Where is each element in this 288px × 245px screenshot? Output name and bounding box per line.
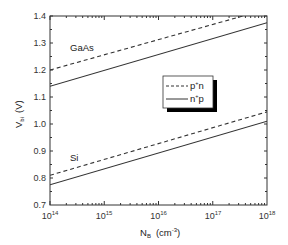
series-gaas-n+p-line (50, 23, 267, 86)
y-tick-label: 0.7 (33, 200, 46, 210)
legend: p+n n+p (163, 76, 217, 112)
series-si-p+n-line (50, 112, 267, 175)
annotation-gaas: GaAs (70, 42, 94, 53)
y-tick-label: 0.8 (33, 173, 46, 183)
y-tick-label: 1.1 (33, 92, 46, 102)
plot-area (50, 9, 267, 185)
chart: 0.7 0.8 0.9 1.0 1.1 1.2 1.3 1.4 1014 101… (0, 0, 288, 245)
x-tick-label: 1017 (205, 210, 222, 221)
y-tick-label: 1.4 (33, 11, 46, 21)
x-tick-label: 1018 (259, 210, 276, 221)
x-tick-labels: 1014 1015 1016 1017 1018 (42, 210, 276, 221)
x-axis-label: NB(cm-3) (140, 227, 180, 239)
y-tick-labels: 0.7 0.8 0.9 1.0 1.1 1.2 1.3 1.4 (33, 11, 46, 210)
y-tick-label: 1.0 (33, 119, 46, 129)
y-tick-label: 0.9 (33, 146, 46, 156)
y-tick-label: 1.2 (33, 65, 46, 75)
x-tick-label: 1015 (96, 210, 113, 221)
x-tick-label: 1016 (150, 210, 167, 221)
legend-box (163, 76, 213, 108)
y-tick-label: 1.3 (33, 38, 46, 48)
annotation-si: Si (70, 152, 78, 163)
series-si-n+p-line (50, 121, 267, 184)
x-tick-label: 1014 (42, 210, 59, 221)
y-axis-label: Vbi(V) (13, 100, 25, 128)
